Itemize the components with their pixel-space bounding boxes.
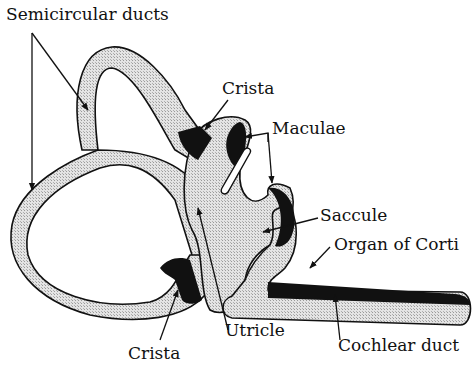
label-maculae: Maculae	[272, 120, 346, 137]
diagram-drawing	[0, 0, 475, 374]
label-saccule: Saccule	[320, 207, 387, 224]
label-crista-top: Crista	[222, 80, 274, 97]
inner-ear-diagram: Semicircular ducts Crista Maculae Saccul…	[0, 0, 475, 374]
label-organ-of-corti: Organ of Corti	[334, 236, 459, 253]
label-utricle: Utricle	[225, 322, 285, 339]
label-semicircular-ducts: Semicircular ducts	[6, 6, 169, 23]
label-crista-bottom: Crista	[128, 345, 180, 362]
label-cochlear-duct: Cochlear duct	[338, 337, 459, 354]
